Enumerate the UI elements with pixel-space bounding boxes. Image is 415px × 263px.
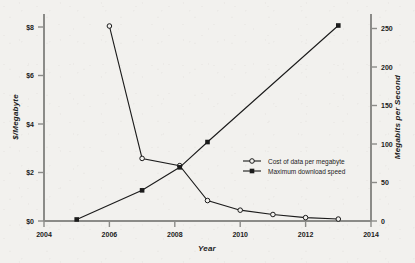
y2-tick-label: 200 — [381, 64, 393, 71]
dual-axis-line-chart: $0 $2 $4 $6 $8 0 50 100 150 200 250 — [0, 0, 415, 263]
x-tick-label: 2010 — [232, 231, 248, 238]
y-tick-label: $4 — [26, 121, 34, 129]
data-point-marker-circle — [336, 217, 341, 222]
y2-axis-title: Megabits per Second — [393, 74, 402, 159]
data-point-marker-circle — [107, 24, 112, 29]
data-point-marker-circle — [140, 156, 145, 161]
x-tick-label: 2014 — [363, 231, 379, 238]
data-point-marker-circle — [303, 215, 308, 220]
y2-tick-label: 50 — [381, 179, 389, 186]
data-point-marker-square — [74, 217, 79, 222]
data-point-marker-circle — [205, 198, 210, 203]
y-tick-label: $0 — [26, 218, 34, 226]
chart-figure: $0 $2 $4 $6 $8 0 50 100 150 200 250 — [0, 0, 415, 263]
y2-tick-label: 250 — [381, 25, 393, 32]
data-point-marker-circle — [238, 208, 243, 213]
data-point-marker-square — [140, 188, 145, 193]
y-tick-label: $6 — [26, 72, 34, 80]
x-tick-label: 2006 — [102, 231, 118, 238]
data-point-marker-circle — [271, 212, 276, 217]
y-tick-label: $8 — [26, 24, 34, 32]
y2-tick-label: 150 — [381, 102, 393, 109]
data-point-marker-square — [177, 165, 182, 170]
x-tick-label: 2012 — [298, 231, 314, 238]
chart-background — [0, 0, 415, 263]
y2-tick-label: 100 — [381, 141, 393, 148]
data-point-marker-square — [205, 140, 210, 145]
y2-tick-label: 0 — [381, 218, 385, 225]
open-circle-icon — [250, 159, 255, 164]
x-tick-label: 2008 — [167, 231, 183, 238]
x-tick-label: 2004 — [36, 231, 52, 238]
filled-square-icon — [250, 169, 255, 174]
data-point-marker-square — [336, 23, 341, 28]
x-axis-title: Year — [198, 244, 217, 253]
y-axis-title: $/Megabyte — [11, 94, 20, 141]
y-tick-label: $2 — [26, 169, 34, 177]
legend-label-speed: Maximum download speed — [268, 168, 346, 176]
legend-label-cost: Cost of data per megabyte — [268, 158, 345, 166]
